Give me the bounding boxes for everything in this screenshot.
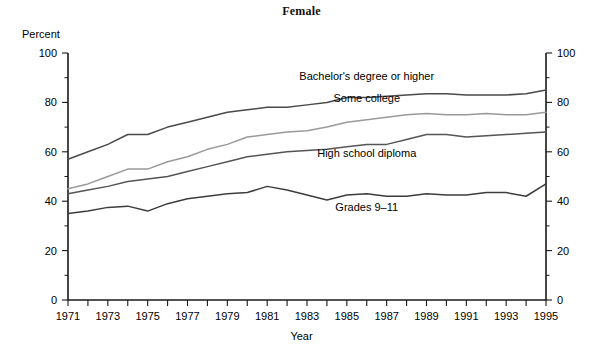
y-tick-label-right: 20 (557, 245, 569, 257)
y-tick-label-right: 60 (557, 146, 569, 158)
series-annotation-1: Bachelor's degree or higher (299, 70, 434, 82)
data-series-line-3 (68, 132, 546, 194)
y-tick-label-right: 0 (557, 294, 563, 306)
series-annotation-4: Grades 9–11 (335, 201, 398, 213)
y-tick-label-left: 20 (45, 245, 57, 257)
data-series-line-4 (68, 184, 546, 214)
data-series-group (68, 90, 546, 214)
y-tick-label-left: 0 (51, 294, 57, 306)
x-tick-label: 1981 (255, 310, 279, 322)
x-tick-label: 1975 (135, 310, 159, 322)
x-tick-label: 1973 (96, 310, 120, 322)
y-tick-label-left: 100 (39, 47, 57, 59)
series-annotation-2: Some college (333, 92, 400, 104)
y-tick-label-left: 80 (45, 96, 57, 108)
data-series-line-1 (68, 90, 546, 159)
x-tick-label: 1991 (454, 310, 478, 322)
series-annotations-group: Bachelor's degree or higherSome collegeH… (299, 70, 434, 213)
y-tick-label-right: 100 (557, 47, 575, 59)
line-chart-plot: 0020204040606080801001001971197319751977… (0, 0, 603, 354)
y-tick-label-right: 80 (557, 96, 569, 108)
x-tick-label: 1977 (175, 310, 199, 322)
tick-marks-group (62, 53, 552, 306)
x-tick-label: 1985 (335, 310, 359, 322)
x-tick-label: 1995 (534, 310, 558, 322)
axes-group (68, 53, 546, 300)
x-tick-label: 1971 (56, 310, 80, 322)
series-annotation-3: High school diploma (317, 147, 417, 159)
x-tick-label: 1983 (295, 310, 319, 322)
x-tick-label: 1987 (374, 310, 398, 322)
x-tick-label: 1993 (494, 310, 518, 322)
tick-labels-group: 0020204040606080801001001971197319751977… (39, 47, 576, 322)
chart-figure: Female Percent Year 00202040406060808010… (0, 0, 603, 354)
x-tick-label: 1979 (215, 310, 239, 322)
y-tick-label-left: 40 (45, 195, 57, 207)
chart-axes (68, 53, 546, 300)
y-tick-label-left: 60 (45, 146, 57, 158)
y-tick-label-right: 40 (557, 195, 569, 207)
x-tick-label: 1989 (414, 310, 438, 322)
